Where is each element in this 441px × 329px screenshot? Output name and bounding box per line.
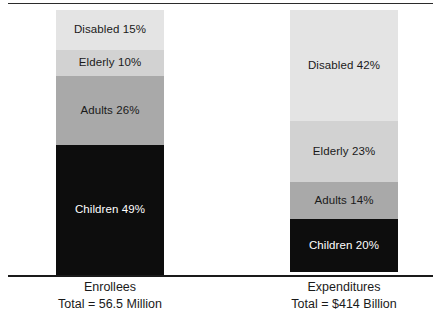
axis-baseline [8, 275, 433, 277]
bar-segment-label: Elderly 10% [79, 57, 141, 69]
category-caption-enrollees: Enrollees Total = 56.5 Million [15, 279, 205, 313]
bar-segment-label: Adults 26% [80, 105, 139, 117]
stacked-bar-expenditures: Disabled 42% Elderly 23% Adults 14% Chil… [290, 10, 398, 275]
category-total: Total = 56.5 Million [15, 296, 205, 313]
stacked-bar-chart: Disabled 15% Elderly 10% Adults 26% Chil… [0, 0, 441, 329]
category-title: Enrollees [15, 279, 205, 296]
bar-group-enrollees: Disabled 15% Elderly 10% Adults 26% Chil… [56, 10, 164, 275]
plot-area: Disabled 15% Elderly 10% Adults 26% Chil… [0, 0, 441, 275]
bar-segment-enrollees-children[interactable]: Children 49% [56, 145, 164, 275]
stacked-bar-enrollees: Disabled 15% Elderly 10% Adults 26% Chil… [56, 10, 164, 275]
bar-segment-label: Adults 14% [314, 195, 373, 207]
bar-segment-label: Children 20% [309, 240, 379, 252]
bar-segment-label: Children 49% [75, 204, 145, 216]
bar-segment-label: Elderly 23% [313, 146, 375, 158]
bar-segment-label: Disabled 15% [74, 24, 146, 36]
bar-segment-enrollees-adults[interactable]: Adults 26% [56, 76, 164, 145]
bar-segment-expenditures-elderly[interactable]: Elderly 23% [290, 121, 398, 182]
bar-segment-label: Disabled 42% [308, 60, 380, 72]
bar-segment-enrollees-elderly[interactable]: Elderly 10% [56, 50, 164, 77]
bar-segment-enrollees-disabled[interactable]: Disabled 15% [56, 10, 164, 50]
bar-group-expenditures: Disabled 42% Elderly 23% Adults 14% Chil… [290, 10, 398, 275]
category-captions: Enrollees Total = 56.5 Million Expenditu… [0, 279, 441, 329]
bar-segment-expenditures-adults[interactable]: Adults 14% [290, 182, 398, 219]
category-caption-expenditures: Expenditures Total = $414 Billion [249, 279, 439, 313]
category-total: Total = $414 Billion [249, 296, 439, 313]
category-title: Expenditures [249, 279, 439, 296]
bar-segment-expenditures-disabled[interactable]: Disabled 42% [290, 10, 398, 121]
bar-segment-expenditures-children[interactable]: Children 20% [290, 219, 398, 272]
